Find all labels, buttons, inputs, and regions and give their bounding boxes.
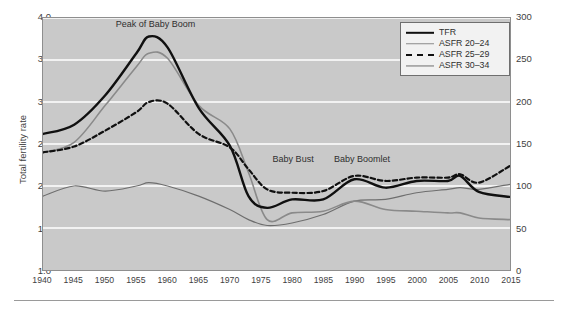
y-tick-right: 250 (516, 55, 532, 65)
y-tick-right: 300 (516, 12, 532, 22)
legend-label-asfr-20-24: ASFR 20–24 (439, 39, 489, 48)
legend-label-asfr-25-29: ASFR 25–29 (439, 50, 489, 59)
x-tick: 1940 (32, 276, 51, 285)
x-tick: 1985 (314, 276, 333, 285)
annotation-baby-bust: Baby Bust (273, 154, 314, 164)
annotation-peak-of-baby-boom: Peak of Baby Boom (116, 19, 196, 29)
x-tick: 2000 (408, 276, 427, 285)
legend-label-asfr-30-34: ASFR 30–34 (439, 61, 489, 70)
fertility-rate-chart: Total fertility rate ASFR (births per 1,… (0, 0, 566, 310)
x-tick: 1945 (64, 276, 83, 285)
x-tick: 1950 (95, 276, 114, 285)
y-tick-right: 50 (516, 224, 527, 234)
chart-legend: TFR ASFR 20–24 ASFR 25–29 ASFR 30–34 (400, 22, 510, 76)
x-tick: 1990 (345, 276, 364, 285)
y-tick-right: 100 (516, 182, 532, 192)
x-tick: 2005 (439, 276, 458, 285)
legend-label-tfr: TFR (439, 28, 456, 37)
x-tick: 2010 (470, 276, 489, 285)
x-tick: 1995 (376, 276, 395, 285)
x-tick: 1975 (251, 276, 270, 285)
series-line-asfr-25-29 (43, 100, 510, 193)
legend-swatch-tfr (406, 29, 434, 37)
legend-item-asfr-30-34[interactable]: ASFR 30–34 (406, 60, 504, 71)
y-axis-left-title: Total fertility rate (17, 90, 28, 210)
legend-swatch-asfr-25-29 (406, 51, 434, 59)
footer-divider (14, 300, 554, 301)
annotation-baby-boomlet: Baby Boomlet (334, 154, 390, 164)
legend-item-asfr-25-29[interactable]: ASFR 25–29 (406, 49, 504, 60)
y-tick-right: 150 (516, 139, 532, 149)
legend-swatch-asfr-20-24 (406, 40, 434, 48)
x-tick: 2015 (501, 276, 520, 285)
legend-item-tfr[interactable]: TFR (406, 27, 504, 38)
y-tick-right: 200 (516, 97, 532, 107)
series-line-asfr-20-24 (43, 52, 510, 222)
legend-swatch-asfr-30-34 (406, 62, 434, 70)
legend-item-asfr-20-24[interactable]: ASFR 20–24 (406, 38, 504, 49)
x-tick: 1965 (189, 276, 208, 285)
x-tick: 1980 (282, 276, 301, 285)
x-tick: 1960 (157, 276, 176, 285)
x-tick: 1955 (126, 276, 145, 285)
x-tick: 1970 (220, 276, 239, 285)
